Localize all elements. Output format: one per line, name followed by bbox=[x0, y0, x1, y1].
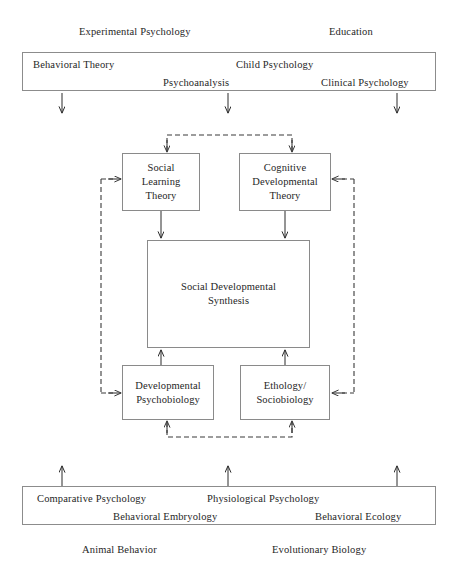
node-label-social-developmental-synthesis: Social Developmental Synthesis bbox=[181, 280, 276, 308]
dashed-bridge-bottom bbox=[167, 422, 292, 437]
top-band-item-psychoanalysis: Psychoanalysis bbox=[163, 76, 229, 89]
bottom-caption-animal-behavior: Animal Behavior bbox=[82, 543, 157, 556]
node-label-cognitive-developmental-theory: Cognitive Developmental Theory bbox=[252, 161, 317, 203]
node-developmental-psychobiology[interactable]: Developmental Psychobiology bbox=[122, 365, 214, 420]
node-cognitive-developmental-theory[interactable]: Cognitive Developmental Theory bbox=[239, 153, 331, 211]
bottom-band-item-behavioral-ecology: Behavioral Ecology bbox=[315, 510, 401, 523]
node-label-social-learning-theory: Social Learning Theory bbox=[142, 161, 181, 203]
bottom-caption-evolutionary-biology: Evolutionary Biology bbox=[272, 543, 366, 556]
dashed-bridge-top bbox=[167, 135, 292, 151]
bottom-band-item-physiological-psychology: Physiological Psychology bbox=[207, 492, 319, 505]
bottom-band-item-comparative-psychology: Comparative Psychology bbox=[37, 492, 146, 505]
node-label-developmental-psychobiology: Developmental Psychobiology bbox=[135, 379, 200, 407]
node-label-ethology-sociobiology: Ethology/ Sociobiology bbox=[256, 379, 313, 407]
node-social-developmental-synthesis[interactable]: Social Developmental Synthesis bbox=[147, 240, 310, 348]
bottom-band-item-behavioral-embryology: Behavioral Embryology bbox=[113, 510, 217, 523]
top-band-item-child-psychology: Child Psychology bbox=[236, 58, 313, 71]
node-social-learning-theory[interactable]: Social Learning Theory bbox=[122, 153, 200, 211]
top-caption-experimental-psychology: Experimental Psychology bbox=[79, 25, 191, 38]
top-band-item-clinical-psychology: Clinical Psychology bbox=[321, 76, 409, 89]
node-ethology-sociobiology[interactable]: Ethology/ Sociobiology bbox=[240, 365, 330, 420]
top-band-item-behavioral-theory: Behavioral Theory bbox=[33, 58, 114, 71]
diagram-canvas: Experimental Psychology Education Behavi… bbox=[0, 0, 457, 562]
top-caption-education: Education bbox=[329, 25, 373, 38]
